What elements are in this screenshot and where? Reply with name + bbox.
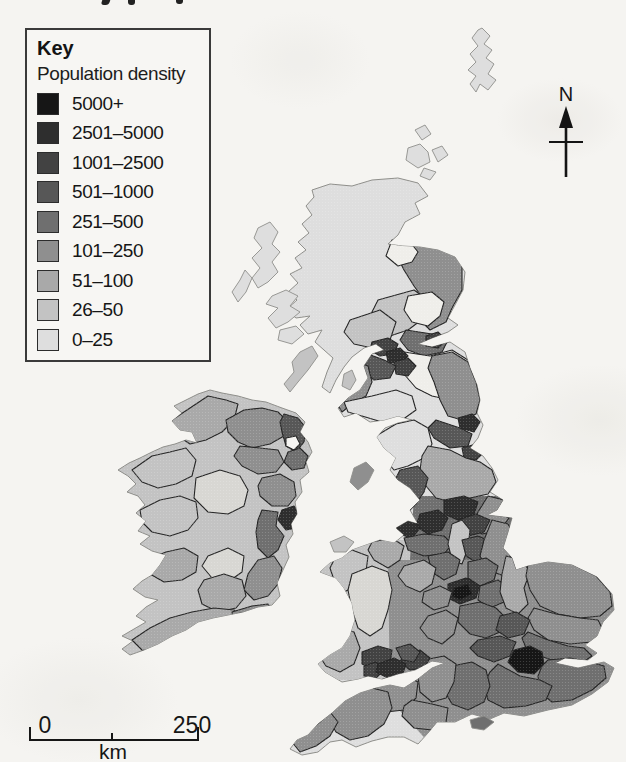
key-row-label: 2501–5000 — [72, 122, 164, 144]
island-uist — [232, 270, 252, 302]
ireland-regions — [118, 390, 312, 655]
key-title: Key — [37, 35, 200, 61]
key-row: 2501–5000 — [37, 119, 200, 149]
key-row: 101–250 — [37, 237, 200, 267]
great-britain-regions — [286, 178, 620, 755]
island-isle-of-man — [350, 462, 374, 490]
island-orkney-2 — [406, 144, 430, 168]
island-orkney-4 — [420, 168, 436, 180]
island-mull — [278, 326, 304, 344]
key-swatch — [37, 152, 59, 174]
scale-end-label: 250 — [173, 712, 211, 738]
key-swatch — [37, 329, 59, 351]
great-britain-texture — [286, 178, 614, 755]
north-label: N — [559, 83, 573, 105]
key-row: 1001–2500 — [37, 148, 200, 178]
scale-unit-label: km — [99, 740, 127, 762]
north-arrowhead — [559, 106, 573, 128]
key-swatch — [37, 122, 59, 144]
key-subtitle: Population density — [37, 61, 200, 86]
scale-start-label: 0 — [39, 712, 52, 738]
map-key: Key Population density 5000+2501–5000100… — [25, 28, 211, 362]
key-row: 26–50 — [37, 296, 200, 326]
key-row: 5000+ — [37, 89, 200, 119]
island-orkney-3 — [432, 146, 448, 162]
scale-bar: 0 250 km — [30, 712, 211, 762]
island-arran — [342, 370, 356, 390]
key-swatch — [37, 270, 59, 292]
island-orkney-1 — [415, 125, 431, 140]
ireland-texture — [118, 390, 312, 655]
island-shetland — [468, 28, 496, 92]
cropped-letter-fragment — [128, 0, 135, 5]
key-row-label: 101–250 — [72, 240, 143, 262]
key-row-label: 251–500 — [72, 211, 143, 233]
island-islay-jura — [284, 346, 318, 392]
island-skye — [266, 290, 300, 328]
key-row: 51–100 — [37, 266, 200, 296]
north-arrow: N — [549, 83, 583, 177]
key-row-label: 501–1000 — [72, 181, 153, 203]
key-row-label: 51–100 — [72, 270, 133, 292]
key-row: 251–500 — [37, 207, 200, 237]
key-row-label: 1001–2500 — [72, 152, 164, 174]
key-row-label: 0–25 — [72, 329, 113, 351]
key-row: 501–1000 — [37, 178, 200, 208]
key-row: 0–25 — [37, 325, 200, 355]
key-swatch — [37, 211, 59, 233]
island-lewis-harris — [252, 222, 280, 288]
key-swatch — [37, 93, 59, 115]
key-swatch — [37, 240, 59, 262]
key-swatch — [37, 181, 59, 203]
key-rows: 5000+2501–50001001–2500501–1000251–50010… — [37, 89, 200, 355]
key-row-label: 26–50 — [72, 299, 123, 321]
island-anglesey — [330, 536, 354, 552]
key-swatch — [37, 299, 59, 321]
key-row-label: 5000+ — [72, 93, 123, 115]
